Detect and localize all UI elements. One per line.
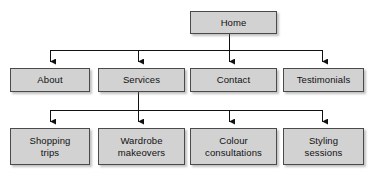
node-testimonials-label: Testimonials [284, 74, 363, 86]
node-services-label: Services [99, 74, 184, 86]
node-about-label: About [11, 74, 89, 86]
node-shopping-trips-label: Shopping trips [11, 135, 89, 159]
node-home-label: Home [191, 17, 276, 29]
node-testimonials[interactable]: Testimonials [283, 68, 364, 92]
node-wardrobe-makeovers-label: Wardrobe makeovers [99, 135, 184, 159]
node-services[interactable]: Services [98, 68, 185, 92]
node-styling-sessions-label: Styling sessions [284, 135, 363, 159]
node-wardrobe-makeovers[interactable]: Wardrobe makeovers [98, 128, 185, 165]
node-home[interactable]: Home [190, 11, 277, 34]
node-contact[interactable]: Contact [190, 68, 277, 92]
node-shopping-trips[interactable]: Shopping trips [10, 128, 90, 165]
node-contact-label: Contact [191, 74, 276, 86]
node-styling-sessions[interactable]: Styling sessions [283, 128, 364, 165]
node-colour-consultations[interactable]: Colour consultations [190, 128, 277, 165]
site-map-diagram: Home About Services Contact Testimonials… [0, 0, 372, 177]
node-colour-consultations-label: Colour consultations [191, 135, 276, 159]
connectors-level-1-to-2 [50, 34, 323, 62]
node-about[interactable]: About [10, 68, 90, 92]
connectors-level-2-to-3 [50, 92, 323, 122]
